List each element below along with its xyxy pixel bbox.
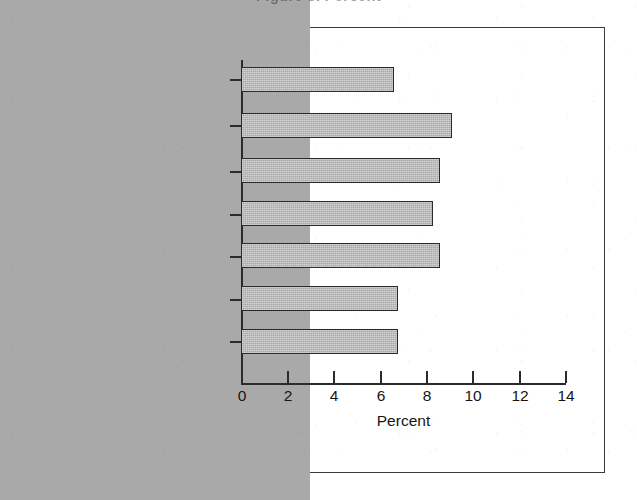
y-tick-mark [230, 171, 241, 173]
x-tick-mark [333, 371, 335, 383]
y-tick-mark [230, 256, 241, 258]
x-tick-label-12: 12 [500, 388, 540, 404]
x-tick-mark [380, 371, 382, 383]
x-tick-mark [287, 371, 289, 383]
x-axis-title: Percent [241, 412, 566, 430]
x-tick-mark [426, 371, 428, 383]
x-tick-label-8: 8 [407, 388, 447, 404]
bar-chart-plot: United States Denmark France Germany Ita… [0, 0, 310, 500]
y-tick-mark [230, 214, 241, 216]
chart-title-clipped: Figure 3. Percent [0, 0, 637, 14]
x-tick-label-14: 14 [546, 388, 586, 404]
bar-sweden [241, 286, 398, 311]
chart-title-text: Figure 3. Percent [0, 0, 637, 4]
x-tick-label-6: 6 [361, 388, 401, 404]
x-tick-label-4: 4 [314, 388, 354, 404]
x-tick-mark [241, 371, 243, 383]
y-tick-mark [230, 299, 241, 301]
x-tick-mark [472, 371, 474, 383]
x-tick-label-0: 0 [222, 388, 262, 404]
x-tick-mark [565, 371, 567, 383]
bar-united-kingdom [241, 329, 398, 354]
bar-united-states [241, 67, 394, 92]
y-tick-mark [230, 79, 241, 81]
bar-germany [241, 201, 433, 226]
bar-italy [241, 243, 440, 268]
x-tick-label-2: 2 [268, 388, 308, 404]
bar-denmark [241, 113, 452, 138]
x-tick-mark [519, 371, 521, 383]
x-axis-line [241, 383, 566, 385]
y-tick-mark [230, 341, 241, 343]
y-tick-mark [230, 125, 241, 127]
x-tick-label-10: 10 [453, 388, 493, 404]
bar-france [241, 158, 440, 183]
